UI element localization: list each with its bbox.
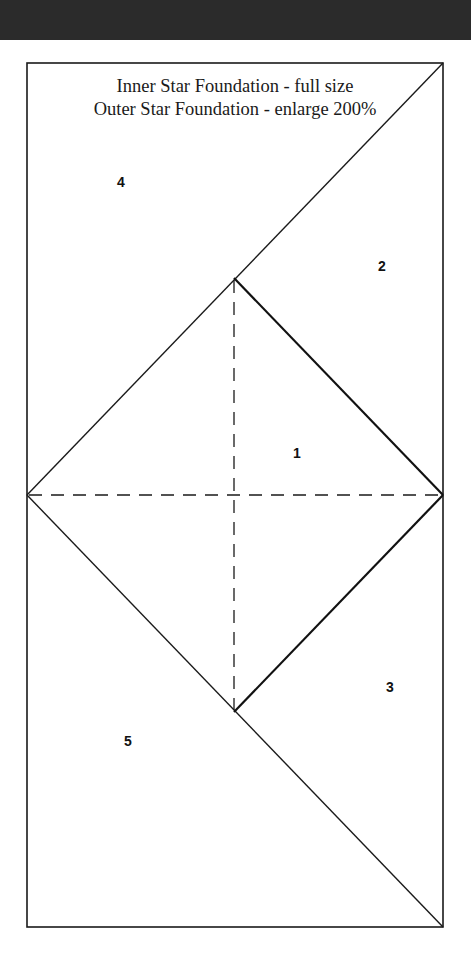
piece-label-5: 5 bbox=[124, 733, 132, 749]
foundation-pattern bbox=[0, 0, 471, 975]
diamond-lower-right-edge bbox=[234, 495, 443, 712]
piece-label-2: 2 bbox=[378, 258, 386, 274]
title-line-2: Outer Star Foundation - enlarge 200% bbox=[27, 99, 443, 120]
piece-label-1: 1 bbox=[293, 445, 301, 461]
piece-label-4: 4 bbox=[117, 174, 125, 190]
diamond-upper-right-edge bbox=[234, 278, 443, 495]
title-line-1: Inner Star Foundation - full size bbox=[27, 76, 443, 97]
piece-label-3: 3 bbox=[386, 679, 394, 695]
